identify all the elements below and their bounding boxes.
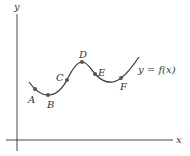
point-marker <box>46 93 50 97</box>
point-e: E <box>93 67 106 78</box>
point-c: C <box>56 72 69 83</box>
y-axis-label: y <box>13 1 20 12</box>
point-label-e: E <box>97 67 106 78</box>
curve-label: y = f(x) <box>137 64 176 75</box>
point-label-b: B <box>46 99 54 110</box>
point-label-a: A <box>27 94 35 105</box>
function-graph: y x y = f(x) A B C D E F <box>0 0 190 156</box>
point-marker <box>93 72 97 76</box>
point-d: D <box>78 49 87 64</box>
x-axis-label: x <box>176 134 182 145</box>
point-label-d: D <box>78 49 87 60</box>
point-marker <box>65 78 69 82</box>
point-label-c: C <box>56 72 64 83</box>
point-label-f: F <box>119 81 128 92</box>
point-marker <box>33 87 37 91</box>
point-marker <box>119 76 123 80</box>
point-f: F <box>119 76 128 92</box>
point-a: A <box>27 87 37 105</box>
point-marker <box>80 60 84 64</box>
